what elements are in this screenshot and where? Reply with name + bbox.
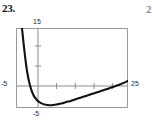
y-axis-min-label: -5 <box>33 110 39 118</box>
plot-canvas <box>16 28 128 108</box>
x-axis-max-label: 25 <box>131 80 139 88</box>
next-problem-number-partial: 2 <box>146 3 152 15</box>
plot-area <box>16 28 128 108</box>
y-axis-max-label: 15 <box>33 18 41 26</box>
problem-number: 23. <box>2 2 15 14</box>
figure-container: 23. 2 15 -5 -5 25 <box>0 0 152 126</box>
x-axis-min-label: -5 <box>1 80 7 88</box>
